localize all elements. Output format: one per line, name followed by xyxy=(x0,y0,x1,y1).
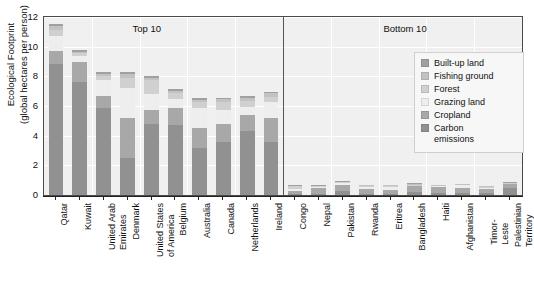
legend-label: Forest xyxy=(434,84,460,95)
bar-segment xyxy=(264,142,279,195)
legend-swatch-icon xyxy=(421,124,429,132)
bar-segment xyxy=(264,102,279,118)
bar-1 xyxy=(49,24,64,195)
y-tick-label: 4 xyxy=(16,129,38,140)
bar-segment xyxy=(168,108,183,125)
bar-segment xyxy=(72,62,87,83)
bar-segment xyxy=(216,110,231,124)
bar-segment xyxy=(216,102,231,110)
x-tick-mark xyxy=(366,196,367,200)
x-tick-label: Kuwait xyxy=(83,203,94,230)
x-tick-mark xyxy=(509,196,510,200)
bar-segment xyxy=(383,194,398,195)
x-tick-mark xyxy=(222,196,223,200)
bar-8 xyxy=(216,98,231,195)
legend-label: Fishing ground xyxy=(434,71,494,82)
bar-18 xyxy=(455,184,470,195)
bar-segment xyxy=(120,118,135,158)
legend-swatch-icon xyxy=(421,98,429,106)
bar-9 xyxy=(240,96,255,195)
x-tick-label: United Arab Emirates xyxy=(107,203,128,250)
bar-13 xyxy=(335,181,350,195)
bar-segment xyxy=(455,193,470,195)
bar-6 xyxy=(168,89,183,195)
x-tick-label: Eritrea xyxy=(394,203,405,230)
bar-segment xyxy=(192,128,207,148)
legend-label: Grazing land xyxy=(434,97,485,108)
x-tick-label: Pakistan xyxy=(346,203,357,238)
x-tick-label: Palestinian Territory xyxy=(513,203,534,247)
x-tick-mark xyxy=(413,196,414,200)
bar-segment xyxy=(49,51,64,64)
bar-segment xyxy=(168,99,183,108)
bar-segment xyxy=(72,82,87,195)
panel-label-top-10: Top 10 xyxy=(132,23,161,34)
bar-5 xyxy=(144,76,159,195)
bar-segment xyxy=(240,107,255,115)
x-tick-label: Canada xyxy=(226,203,237,235)
bar-segment xyxy=(120,78,135,88)
x-tick-label: Afghanistan xyxy=(465,203,476,251)
bar-3 xyxy=(96,72,111,195)
x-axis-line xyxy=(43,196,523,197)
legend-swatch-icon xyxy=(421,111,429,119)
bar-segment xyxy=(96,80,111,96)
panel-divider xyxy=(283,17,284,195)
bar-16 xyxy=(407,183,422,195)
bar-segment xyxy=(407,192,422,195)
x-tick-label: Nepal xyxy=(322,203,333,227)
bar-7 xyxy=(192,98,207,195)
bar-segment xyxy=(168,125,183,195)
bar-segment xyxy=(49,64,64,195)
x-tick-label: Haiti xyxy=(441,203,452,221)
bar-segment xyxy=(144,94,159,110)
x-tick-mark xyxy=(485,196,486,200)
legend-label: Cropland xyxy=(434,110,471,121)
bar-segment xyxy=(479,193,494,195)
bar-20 xyxy=(503,182,518,195)
x-tick-label: Timor-Leste xyxy=(489,203,510,245)
bar-segment xyxy=(144,124,159,195)
y-tick-label: 8 xyxy=(16,70,38,81)
legend-item-4: Grazing land xyxy=(420,97,518,108)
x-tick-mark xyxy=(437,196,438,200)
legend-swatch-icon xyxy=(421,72,429,80)
x-tick-label: Bangladesh xyxy=(417,203,428,251)
bar-segment xyxy=(359,194,374,195)
bar-segment xyxy=(288,194,303,195)
bar-14 xyxy=(359,185,374,195)
x-tick-label: Australia xyxy=(202,203,213,238)
bar-segment xyxy=(144,110,159,124)
bar-segment xyxy=(120,88,135,118)
bar-11 xyxy=(288,185,303,195)
x-tick-mark xyxy=(318,196,319,200)
x-tick-mark xyxy=(174,196,175,200)
bar-2 xyxy=(72,50,87,195)
bar-segment xyxy=(216,142,231,195)
panel-label-bottom-10: Bottom 10 xyxy=(383,23,426,34)
x-tick-mark xyxy=(294,196,295,200)
bar-10 xyxy=(264,92,279,195)
x-tick-mark xyxy=(342,196,343,200)
bar-segment xyxy=(240,115,255,131)
y-tick-label: 6 xyxy=(16,100,38,111)
x-tick-mark xyxy=(461,196,462,200)
bar-segment xyxy=(503,188,518,195)
x-tick-mark xyxy=(151,196,152,200)
bar-segment xyxy=(192,148,207,195)
legend-label: Carbon emissions xyxy=(434,123,474,145)
x-tick-mark xyxy=(79,196,80,200)
legend-swatch-icon xyxy=(421,59,429,67)
x-tick-label: Denmark xyxy=(131,203,142,240)
x-tick-label: Qatar xyxy=(59,203,70,226)
x-tick-mark xyxy=(246,196,247,200)
bar-12 xyxy=(311,185,326,195)
x-tick-mark xyxy=(270,196,271,200)
bar-15 xyxy=(383,185,398,195)
y-tick-label: 0 xyxy=(16,189,38,200)
legend-label: Built-up land xyxy=(434,58,484,69)
bar-segment xyxy=(96,108,111,196)
bar-segment xyxy=(168,93,183,100)
bar-segment xyxy=(192,108,207,128)
